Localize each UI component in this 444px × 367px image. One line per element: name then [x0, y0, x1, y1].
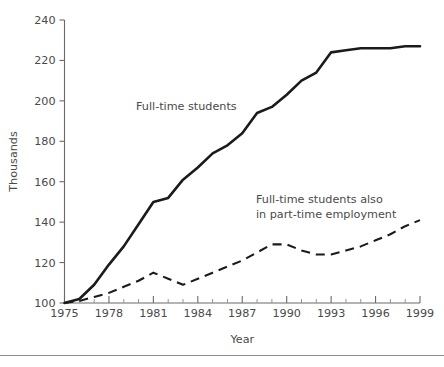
series-lines	[65, 46, 421, 303]
x-axis-title: Year	[229, 333, 254, 346]
y-axis-tick-label: 140	[34, 216, 55, 229]
x-axis-tick-label: 1999	[406, 307, 434, 320]
x-axis-tick-label: 1978	[95, 307, 123, 320]
x-axis-tick-label: 1996	[361, 307, 389, 320]
x-axis: 197519781981198419871990199319961999	[50, 296, 434, 320]
x-axis-tick-label: 1984	[184, 307, 212, 320]
y-axis-tick-label: 200	[34, 95, 55, 108]
series-line-full-time-students	[65, 46, 421, 303]
y-axis-tick-label: 240	[34, 14, 55, 27]
annotation-full-time-students: Full-time students	[136, 100, 237, 113]
y-axis-title: Thousands	[7, 131, 20, 193]
annotation-line: Full-time students also	[256, 193, 383, 206]
y-axis-tick-label: 120	[34, 257, 55, 270]
annotation-line: in part-time employment	[256, 208, 397, 221]
series-line-part-time-employment	[65, 220, 421, 303]
y-axis-tick-label: 160	[34, 176, 55, 189]
annotation-line: Full-time students	[136, 100, 237, 113]
x-axis-tick-label: 1990	[272, 307, 300, 320]
x-axis-tick-label: 1987	[228, 307, 256, 320]
y-axis: 100120140160180200220240	[34, 14, 64, 310]
x-axis-tick-label: 1993	[317, 307, 345, 320]
x-axis-tick-label: 1975	[50, 307, 78, 320]
line-chart: 100120140160180200220240 197519781981198…	[0, 0, 444, 367]
chart-figure: 100120140160180200220240 197519781981198…	[0, 0, 444, 367]
annotation-part-time-employment: Full-time students alsoin part-time empl…	[256, 193, 397, 221]
x-axis-tick-label: 1981	[139, 307, 167, 320]
y-axis-tick-label: 180	[34, 135, 55, 148]
y-axis-tick-label: 220	[34, 54, 55, 67]
